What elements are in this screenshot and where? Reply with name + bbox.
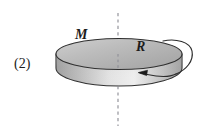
disk-top-face [56, 39, 182, 70]
radius-label: R [136, 40, 145, 54]
figure-index-label: (2) [14, 57, 30, 71]
physics-figure-disk-rotation: (2) M R [0, 0, 204, 137]
disk-diagram-canvas [0, 0, 204, 137]
mass-label: M [75, 28, 87, 42]
